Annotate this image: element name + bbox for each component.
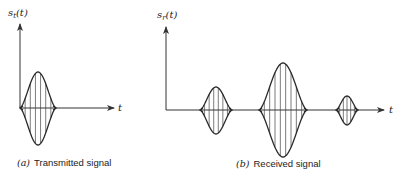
panel-a-transmitted: st(t) t (a)Transmitted signal <box>8 7 123 168</box>
signal-diagram: st(t) t (a)Transmitted signal sr(t) t (b… <box>0 0 396 181</box>
caption-b: (b)Received signal <box>236 158 321 169</box>
y-axis-label-a: st(t) <box>8 7 28 20</box>
caption-a: (a)Transmitted signal <box>17 157 111 168</box>
t-axis-label-a: t <box>118 102 123 113</box>
y-axis-label-b: sr(t) <box>157 9 177 22</box>
t-axis-label-b: t <box>389 104 394 115</box>
panel-b-received: sr(t) t (b)Received signal <box>157 9 394 169</box>
